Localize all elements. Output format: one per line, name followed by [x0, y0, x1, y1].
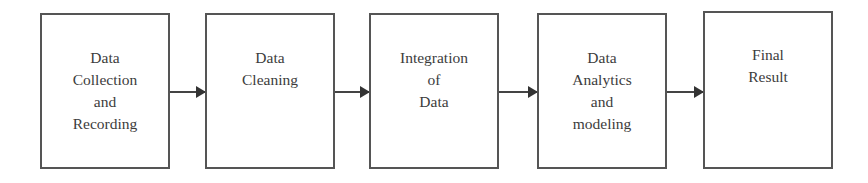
label-line: of — [371, 69, 497, 91]
label-line: Data — [42, 47, 168, 69]
label-line: Integration — [371, 47, 497, 69]
step-label: Data Collection and Recording — [42, 47, 168, 135]
label-line: and — [42, 91, 168, 113]
label-line: Data — [539, 47, 665, 69]
step-box-data-analytics: Data Analytics and modeling — [537, 13, 667, 169]
label-line: and — [539, 91, 665, 113]
step-box-data-cleaning: Data Cleaning — [205, 13, 335, 169]
label-line: Cleaning — [207, 69, 333, 91]
label-line: Recording — [42, 113, 168, 135]
step-box-final-result: Final Result — [703, 11, 833, 169]
label-line: Result — [705, 66, 831, 88]
label-line: modeling — [539, 113, 665, 135]
label-line: Collection — [42, 69, 168, 91]
label-line: Data — [371, 91, 497, 113]
step-label: Final Result — [705, 44, 831, 88]
arrow-2-to-3 — [335, 91, 369, 93]
label-line: Data — [207, 47, 333, 69]
step-box-integration-of-data: Integration of Data — [369, 13, 499, 169]
arrow-3-to-4 — [499, 91, 537, 93]
label-line: Analytics — [539, 69, 665, 91]
label-line: Final — [705, 44, 831, 66]
step-label: Integration of Data — [371, 47, 497, 113]
step-label: Data Cleaning — [207, 47, 333, 91]
step-label: Data Analytics and modeling — [539, 47, 665, 135]
arrow-1-to-2 — [170, 91, 205, 93]
step-box-data-collection: Data Collection and Recording — [40, 13, 170, 169]
arrow-4-to-5 — [667, 91, 703, 93]
